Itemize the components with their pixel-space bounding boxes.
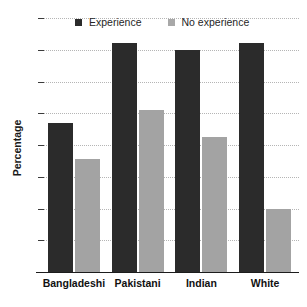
x-axis-label-pakistani: Pakistani bbox=[115, 277, 161, 289]
x-axis-label-indian: Indian bbox=[186, 277, 217, 289]
y-tick-mark-20 bbox=[38, 209, 44, 210]
y-tick-mark-60 bbox=[38, 82, 44, 83]
y-tick-mark-40 bbox=[38, 145, 44, 146]
legend-item-experience[interactable]: Experience bbox=[75, 16, 142, 28]
legend-label-no-experience: No experience bbox=[182, 16, 250, 28]
bar-bangladeshi-experience bbox=[48, 123, 73, 272]
bar-indian-experience bbox=[175, 50, 200, 272]
legend-swatch-icon-experience bbox=[75, 19, 82, 26]
y-tick-mark-80 bbox=[38, 18, 44, 19]
legend-swatch-icon-no-experience bbox=[168, 19, 175, 26]
legend-label-experience: Experience bbox=[89, 16, 142, 28]
y-axis-label: Percentage bbox=[11, 102, 23, 194]
x-axis-line bbox=[36, 272, 299, 273]
bar-white-no-experience bbox=[266, 209, 291, 273]
bar-chart: Percentage 01020304050607080 Bangladeshi… bbox=[0, 0, 307, 307]
chart-legend: Experience No experience bbox=[75, 16, 249, 28]
chart-title-cropped bbox=[6, 0, 256, 5]
y-tick-mark-50 bbox=[38, 113, 44, 114]
y-tick-mark-30 bbox=[38, 177, 44, 178]
bar-pakistani-no-experience bbox=[139, 110, 164, 272]
bar-bangladeshi-no-experience bbox=[75, 159, 100, 272]
x-axis-label-bangladeshi: Bangladeshi bbox=[43, 277, 105, 289]
bar-pakistani-experience bbox=[112, 43, 137, 272]
legend-item-no-experience[interactable]: No experience bbox=[168, 16, 250, 28]
bar-indian-no-experience bbox=[202, 137, 227, 272]
y-tick-mark-10 bbox=[38, 240, 44, 241]
y-tick-mark-70 bbox=[38, 50, 44, 51]
plot-area: 01020304050607080 bbox=[44, 18, 299, 272]
bar-white-experience bbox=[239, 43, 264, 272]
x-axis-label-white: White bbox=[251, 277, 280, 289]
